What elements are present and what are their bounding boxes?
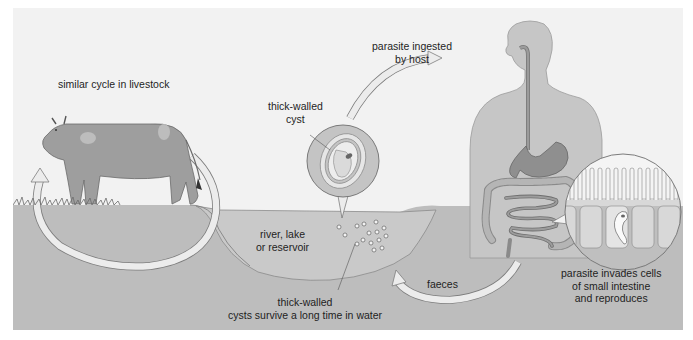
label-ingested-line1: parasite ingested <box>372 40 452 53</box>
label-livestock: similar cycle in livestock <box>58 78 169 91</box>
label-ingested-line2: by host <box>372 53 452 66</box>
label-survive-line2: cysts survive a long time in water <box>228 309 382 322</box>
label-invades: parasite invades cells of small intestin… <box>561 267 661 305</box>
cyst-magnified-inset <box>307 125 379 218</box>
label-invades-line2: of small intestine <box>561 280 661 293</box>
label-survive: thick-walled cysts survive a long time i… <box>228 296 382 321</box>
label-survive-line1: thick-walled <box>228 296 382 309</box>
label-cyst: thick-walled cyst <box>268 100 323 125</box>
cow <box>43 116 202 204</box>
label-faeces: faeces <box>427 278 458 291</box>
arrow-cyst-to-mouth <box>350 58 430 118</box>
label-ingested: parasite ingested by host <box>372 40 452 65</box>
label-water-line2: or reservoir <box>256 241 309 254</box>
label-cyst-line2: cyst <box>268 113 323 126</box>
label-invades-line1: parasite invades cells <box>561 267 661 280</box>
label-water-line1: river, lake <box>256 228 309 241</box>
grass <box>13 197 120 205</box>
label-water: river, lake or reservoir <box>256 228 309 253</box>
label-invades-line3: and reproduces <box>561 292 661 305</box>
label-cyst-line1: thick-walled <box>268 100 323 113</box>
